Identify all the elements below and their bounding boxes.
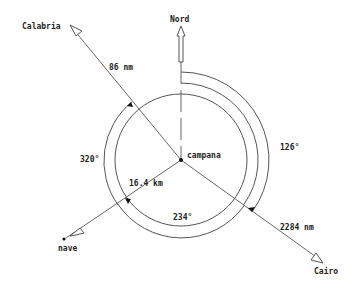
nave-arrow-icon	[70, 228, 84, 236]
calabria-distance-label: 86 nm	[109, 63, 133, 72]
nave-label: nave	[58, 244, 77, 253]
nave-angle-label: 234°	[173, 213, 192, 222]
arc-320	[104, 102, 132, 205]
cairo-angle-label: 126°	[280, 143, 299, 152]
north-axis	[177, 26, 185, 160]
cairo-label: Cairo	[314, 266, 338, 276]
campana-point	[179, 158, 183, 162]
nave-distance-label: 16.4 km	[129, 179, 163, 188]
nave-point	[62, 237, 65, 240]
campana-label: campana	[187, 151, 221, 160]
calabria-label: Calabria	[22, 21, 61, 31]
calabria-arrow-icon	[70, 25, 82, 36]
calabria-bearing-line	[70, 25, 181, 160]
cairo-distance-label: 2284 nm	[280, 223, 314, 232]
arc-234-arrowhead	[125, 198, 131, 204]
nave-bearing-line	[62, 160, 181, 241]
north-arrow-icon	[177, 26, 185, 62]
arc-320-arrowhead	[127, 102, 133, 107]
north-label: Nord	[170, 15, 189, 24]
calabria-angle-label: 320°	[80, 155, 99, 164]
bearing-diagram: Nord Calabria Cairo nave campana 86 nm 2…	[0, 0, 358, 292]
